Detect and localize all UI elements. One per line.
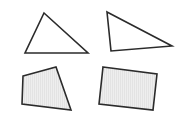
triangle-top-left: [25, 13, 88, 53]
quadrilateral-bottom-right: [99, 67, 157, 110]
shapes-diagram: [0, 0, 188, 120]
triangle-top-right: [107, 12, 172, 51]
quadrilateral-bottom-left: [22, 67, 71, 110]
shape-layer: [22, 12, 172, 110]
